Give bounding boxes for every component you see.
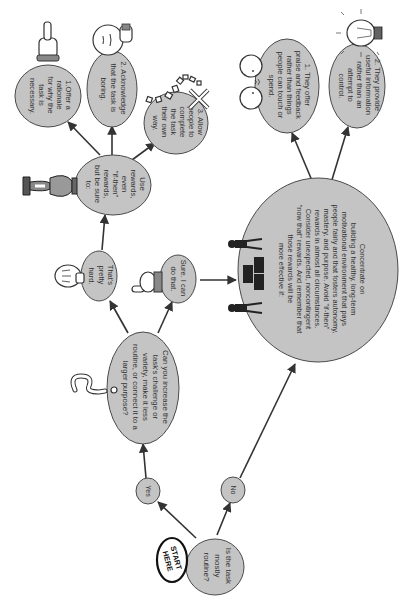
svg-text:Yes: Yes: [145, 485, 152, 497]
acknowledge-line-3: boring.: [99, 77, 108, 100]
rewards-line-6: but be sure: [93, 165, 102, 203]
concentrate-line-3: motivational environment that pays: [340, 212, 349, 327]
edge-rewards-rationale: [68, 122, 100, 155]
increase-line-3: variety, make it less: [141, 353, 150, 421]
increase-line-1: Can you increase the: [161, 350, 170, 424]
pointing-hand-right-icon: [132, 272, 162, 292]
edge-concentrate-praise: [292, 133, 313, 183]
hard-line-3: hard.: [87, 267, 96, 284]
acknowledge-line-1: 2. Acknowledge: [119, 61, 128, 114]
svg-text:No: No: [230, 486, 237, 495]
concentrate-line-9: those rewards will be: [286, 234, 295, 303]
praise-line-3: rather than things: [285, 55, 294, 114]
node-increase-challenge: Can you increase the task's challenge or…: [107, 332, 179, 444]
node-start: Is the task mostly routine?: [186, 539, 244, 595]
start-line-1: Is the task: [224, 548, 233, 585]
trophy-icon: [23, 176, 77, 197]
start-here-badge: START HERE: [157, 538, 187, 582]
node-use-rewards: Use rewards, even "if-then" rewards, but…: [75, 155, 151, 215]
thinking-face-icon: [93, 24, 132, 55]
edge-increase-sure: [158, 302, 172, 333]
edge-hard-rewards: [102, 215, 105, 250]
node-yes: Yes: [136, 478, 160, 504]
node-acknowledge: 2. Acknowledge that the task is boring.: [87, 51, 137, 127]
allow-line-1: 3. Allow: [196, 109, 205, 136]
concentrate-line-8: "now that" rewards. And remember that: [295, 205, 304, 333]
hard-line-2: pretty: [97, 266, 106, 285]
flowchart-canvas: Is the task mostly routine? START HERE Y…: [0, 0, 406, 602]
rewards-line-5: rewards,: [102, 169, 111, 198]
increase-line-4: routine, or connect it to a: [131, 344, 140, 430]
edge-start-no: [217, 503, 230, 535]
thumbs-hand-icon: [55, 265, 84, 287]
praise-line-1: 1. They offer: [303, 64, 312, 107]
information-line-4: attempt to: [346, 68, 355, 102]
increase-line-2: task's challenge or: [151, 355, 160, 420]
concentrate-line-1: Concentrate on: [358, 244, 367, 295]
concentrate-line-7: Consider unexpected, noncontingent: [304, 209, 313, 329]
start-line-3: routine?: [202, 553, 211, 582]
yes-label: Yes: [145, 485, 152, 497]
node-no: No: [221, 477, 245, 503]
allow-line-2: people to: [187, 106, 196, 137]
rationale-line-1: 1.Offer a: [64, 80, 73, 110]
increase-line-5: larger purpose?: [121, 361, 130, 416]
edge-yes-increase: [143, 444, 146, 478]
acknowledge-line-2: that the task is: [109, 63, 118, 112]
allow-line-3: complete: [178, 107, 187, 138]
node-rationale: 1.Offer a rationale for why the task is …: [15, 65, 81, 127]
rewards-line-1: Use: [138, 177, 147, 191]
node-pretty-hard: That's pretty hard.: [81, 251, 117, 301]
sure-line-2: do that.: [169, 266, 178, 291]
concentrate-line-2: building a healthy, long-term: [349, 223, 358, 315]
concentrate-line-4: people fairly and that fosters autonomy,: [331, 205, 340, 334]
information-line-5: control.: [337, 74, 346, 99]
praise-line-4: people can touch or: [276, 52, 285, 119]
concentrate-line-10: more effective if:: [277, 243, 286, 297]
rationale-line-2: rationale: [55, 80, 64, 109]
concentrate-line-6: rewards in almost all circumstances.: [313, 210, 322, 329]
edge-concentrate-information: [331, 127, 348, 183]
rationale-line-4: task is: [37, 84, 46, 106]
information-line-3: rather than an: [355, 61, 364, 108]
allow-line-6: way.: [151, 114, 160, 130]
information-line-1: 2. They provide: [373, 59, 382, 111]
praise-line-2: praise and feedback: [294, 51, 303, 120]
svg-text:1.Offer a rationale: 1.Offer a rationale for why the task is …: [28, 76, 73, 115]
praise-line-5: spend.: [267, 75, 276, 98]
rewards-line-7: to:: [84, 181, 93, 189]
rationale-line-3: for why the: [46, 76, 55, 113]
svg-text:Use rewards, even: Use rewards, even "if-then" rewards, but…: [84, 165, 147, 205]
allow-line-5: their own: [160, 107, 169, 138]
no-label: No: [230, 486, 237, 495]
allow-line-4: the task: [169, 109, 178, 136]
node-sure: Sure. I can do that.: [160, 255, 196, 303]
sure-line-1: Sure. I can: [179, 260, 188, 296]
rewards-line-4: "if-then": [111, 171, 120, 198]
node-praise: 1. They offer praise and feedback rather…: [255, 39, 319, 133]
rationale-line-5: necessary.: [28, 78, 37, 114]
edge-start-yes: [158, 502, 196, 538]
edge-increase-hard: [110, 301, 128, 333]
pointing-hand-icon: [37, 22, 59, 61]
edge-rewards-allow: [132, 143, 155, 160]
information-line-2: useful information: [364, 55, 373, 115]
node-information: 2. They provide useful information rathe…: [329, 44, 385, 128]
rewards-line-2: rewards,: [129, 169, 138, 198]
svg-text:That's pretty hard: That's pretty hard.: [87, 265, 115, 287]
concentrate-line-5: mastery, and purpose. Avoid "if-then": [322, 209, 331, 330]
edge-no-concentrate: [240, 364, 295, 478]
start-line-2: mostly: [213, 554, 222, 577]
rewards-line-3: even: [120, 176, 129, 192]
hard-line-1: That's: [106, 265, 115, 285]
